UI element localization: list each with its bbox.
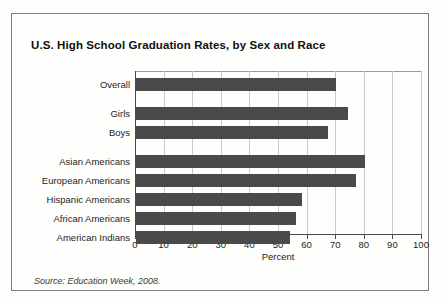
page-title: U.S. High School Graduation Rates, by Se… [31, 39, 325, 51]
category-label: European Americans [42, 174, 130, 187]
category-label: Boys [109, 126, 130, 139]
gridline [192, 71, 193, 234]
gridline [249, 71, 250, 234]
gridline [164, 71, 165, 234]
x-axis-tick-label: 60 [301, 239, 312, 250]
bar [136, 193, 302, 206]
gridline [221, 71, 222, 234]
x-axis-tick-label: 90 [387, 239, 398, 250]
bar [136, 231, 290, 244]
category-label: Asian Americans [59, 155, 130, 168]
bar [136, 107, 348, 120]
y-axis-line [135, 71, 136, 234]
bar [136, 174, 356, 187]
gridline [421, 71, 422, 234]
x-axis-title: Percent [262, 251, 295, 262]
category-label: Girls [110, 107, 130, 120]
figure-frame: U.S. High School Graduation Rates, by Se… [11, 13, 429, 291]
chart-plot-area: 0102030405060708090100PercentOverallGirl… [135, 71, 421, 234]
gridline [278, 71, 279, 234]
bar [136, 155, 365, 168]
gridline [392, 71, 393, 234]
x-axis-tick-label: 100 [413, 239, 429, 250]
chart-canvas: 0102030405060708090100PercentOverallGirl… [135, 71, 421, 234]
figure-page: U.S. High School Graduation Rates, by Se… [0, 0, 442, 304]
bar [136, 212, 296, 225]
category-label: Overall [100, 78, 130, 91]
gridline [364, 71, 365, 234]
x-axis-tick-label: 70 [330, 239, 341, 250]
x-axis-tick-label: 80 [359, 239, 370, 250]
gridline [335, 71, 336, 234]
source-note: Source: Education Week, 2008. [34, 276, 160, 286]
category-label: African Americans [53, 212, 130, 225]
bar [136, 126, 328, 139]
category-label: Hispanic Americans [47, 193, 130, 206]
bar [136, 78, 336, 91]
gridline [307, 71, 308, 234]
category-label: American Indians [57, 231, 130, 244]
